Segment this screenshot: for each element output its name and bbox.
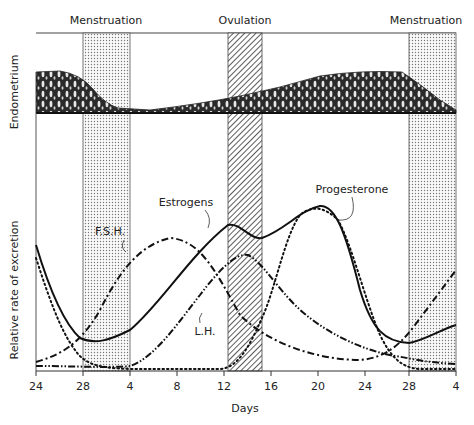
endometrium-label: Endometrium	[8, 55, 21, 130]
progesterone-label: Progesterone	[316, 183, 389, 196]
x-tick: 20	[311, 380, 325, 393]
phase-label-menstruation-left: Menstruation	[70, 14, 143, 27]
x-tick: 28	[76, 380, 90, 393]
estrogens-label: Estrogens	[159, 196, 214, 209]
x-axis-ticks	[36, 371, 456, 376]
x-axis-label: Days	[231, 402, 259, 415]
x-tick: 4	[127, 380, 134, 393]
x-tick: 8	[174, 380, 181, 393]
x-tick: 24	[358, 380, 372, 393]
x-tick: 12	[217, 380, 231, 393]
estrogens-pointer	[205, 210, 209, 228]
lh-pointer	[199, 313, 202, 323]
x-tick: 28	[402, 380, 416, 393]
fsh-label: F.S.H.	[95, 225, 125, 238]
progesterone-pointer	[338, 197, 353, 220]
menstruation-band-left	[83, 33, 130, 371]
lh-label: L.H.	[194, 325, 215, 338]
phase-label-menstruation-right: Menstruation	[390, 14, 463, 27]
hormone-cycle-diagram: Menstruation Ovulation Menstruation Endo…	[0, 0, 474, 425]
y-axis-label: Relative rate of excretion	[8, 221, 21, 360]
x-tick: 16	[264, 380, 278, 393]
x-tick: 4	[453, 380, 460, 393]
phase-label-ovulation: Ovulation	[218, 14, 271, 27]
x-tick: 24	[29, 380, 43, 393]
